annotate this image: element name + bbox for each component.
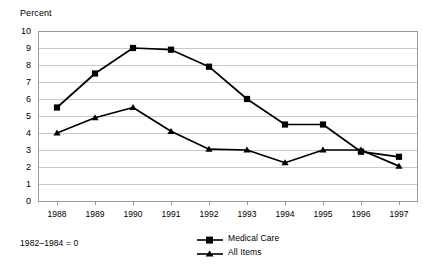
x-tick-label: 1989 xyxy=(75,209,115,219)
legend-label-medical-care: Medical Care xyxy=(224,232,279,244)
legend-label-all-items: All Items xyxy=(224,246,262,258)
legend-item-medical-care[interactable]: Medical Care xyxy=(196,231,376,245)
x-tick-label: 1991 xyxy=(151,209,191,219)
data-point-marker xyxy=(396,154,402,160)
y-tick-label: 2 xyxy=(13,162,31,172)
y-tick-label: 9 xyxy=(13,43,31,53)
x-tick-label: 1992 xyxy=(189,209,229,219)
data-point-marker xyxy=(54,104,60,110)
data-point-marker xyxy=(130,45,136,51)
data-point-marker xyxy=(206,64,212,70)
x-tick-label: 1995 xyxy=(303,209,343,219)
x-tick-label: 1993 xyxy=(227,209,267,219)
x-tick-label: 1996 xyxy=(341,209,381,219)
data-point-marker xyxy=(282,121,288,127)
x-tick-label: 1988 xyxy=(37,209,77,219)
y-tick-label: 5 xyxy=(13,111,31,121)
x-tick-label: 1994 xyxy=(265,209,305,219)
data-point-marker xyxy=(129,104,136,110)
x-tick-label: 1997 xyxy=(379,209,419,219)
square-marker-icon xyxy=(196,232,224,244)
legend-item-all-items[interactable]: All Items xyxy=(196,245,376,259)
triangle-marker-icon xyxy=(196,246,224,258)
plot-area xyxy=(0,0,438,268)
data-point-marker xyxy=(168,47,174,53)
chart-figure: Percent 109876543210 1988198919901991199… xyxy=(0,0,438,268)
y-tick-label: 10 xyxy=(13,26,31,36)
series-line-medical-care xyxy=(57,48,399,157)
y-tick-label: 7 xyxy=(13,77,31,87)
x-tick-label: 1990 xyxy=(113,209,153,219)
y-tick-label: 8 xyxy=(13,60,31,70)
data-point-marker xyxy=(244,96,250,102)
data-point-marker xyxy=(320,121,326,127)
y-tick-label: 3 xyxy=(13,145,31,155)
y-tick-label: 1 xyxy=(13,179,31,189)
y-tick-label: 4 xyxy=(13,128,31,138)
chart-legend: Medical Care All Items xyxy=(196,231,376,259)
y-tick-label: 6 xyxy=(13,94,31,104)
data-point-marker xyxy=(92,70,98,76)
chart-footnote: 1982–1984 = 0 xyxy=(20,238,78,249)
y-tick-label: 0 xyxy=(13,196,31,206)
